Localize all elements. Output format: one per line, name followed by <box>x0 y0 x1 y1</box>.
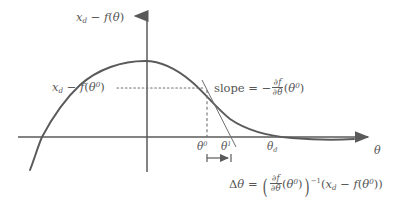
gauss-newton-diagram: xd − f(θ) xd − f(θ0) slope = −∂f∂θ(θ0) θ… <box>0 0 403 203</box>
tick-label-theta1: θ1 <box>221 141 231 152</box>
y-axis-label: xd − f(θ) <box>76 12 124 24</box>
error-curve <box>30 61 354 170</box>
tick-label-theta-d: θd <box>267 141 278 152</box>
diagram-canvas <box>0 0 403 203</box>
curve-value-label: xd − f(θ0) <box>52 82 105 94</box>
slope-label: slope = −∂f∂θ(θ0) <box>214 78 304 97</box>
tick-label-theta0: θ0 <box>197 141 207 152</box>
delta-theta-formula: Δθ = (∂f∂θ(θ0))−1(xd − f(θ0)) <box>229 174 383 197</box>
x-axis-label: θ <box>374 145 381 156</box>
